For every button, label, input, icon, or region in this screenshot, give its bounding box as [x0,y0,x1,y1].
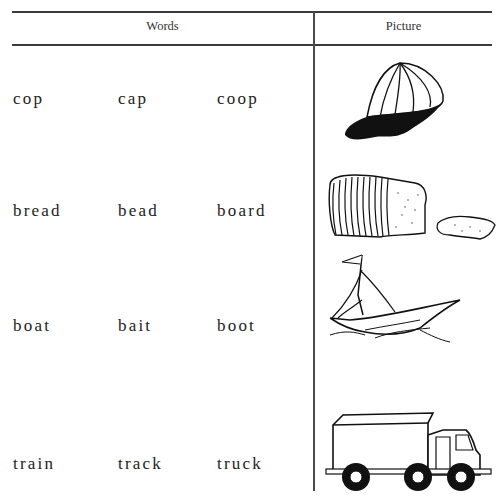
word-option: bead [118,201,159,221]
word-option: truck [217,454,263,474]
column-divider [313,11,315,491]
word-option: coop [217,89,259,109]
bread-icon [320,165,500,245]
header-words: Words [12,19,313,34]
truck-icon [318,405,503,495]
word-option: track [118,454,163,474]
word-option: cap [118,89,148,109]
word-option: boot [217,316,256,336]
top-rule [12,11,492,13]
word-option: train [13,454,55,474]
word-option: board [217,201,267,221]
word-option: bait [118,316,152,336]
word-option: bread [13,201,62,221]
header-rule [12,44,492,46]
cap-icon [335,55,475,150]
word-option: cop [13,89,44,109]
sailboat-icon [330,250,470,350]
word-option: boat [13,316,51,336]
header-picture: Picture [315,19,492,34]
